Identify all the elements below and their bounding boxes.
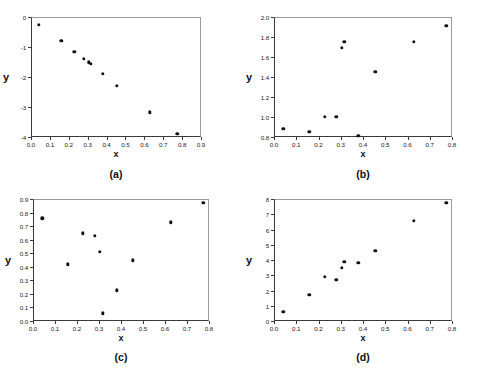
- y-tick-mark: [30, 267, 33, 268]
- data-point: [37, 23, 40, 26]
- y-tick-label: 2: [266, 287, 269, 294]
- x-tick-mark: [408, 321, 409, 324]
- y-tick-mark: [271, 275, 274, 276]
- panel-caption-c: (c): [115, 351, 128, 363]
- data-point: [340, 266, 343, 269]
- x-tick-mark: [125, 137, 126, 140]
- x-tick-label: 0.7: [426, 325, 434, 332]
- y-axis-label-c: y: [5, 254, 11, 266]
- data-point: [445, 24, 448, 27]
- x-tick-mark: [341, 321, 342, 324]
- x-tick-label: 0.1: [292, 141, 300, 148]
- x-axis-label-c: x: [118, 333, 123, 343]
- y-tick-mark: [30, 321, 33, 322]
- x-tick-label: 0.3: [95, 325, 103, 332]
- y-tick-label: 0.5: [20, 250, 28, 257]
- y-tick-label: 0.6: [20, 236, 28, 243]
- x-tick-label: 0.4: [359, 141, 367, 148]
- y-tick-mark: [271, 17, 274, 18]
- x-tick-mark: [144, 137, 145, 140]
- x-tick-label: 0.1: [292, 325, 300, 332]
- x-tick-label: 0.0: [270, 141, 278, 148]
- plot-frame-c: [33, 199, 209, 321]
- y-tick-mark: [30, 280, 33, 281]
- y-tick-mark: [271, 245, 274, 246]
- plot-frame-a: [31, 17, 201, 137]
- plot-area-c: [34, 200, 208, 320]
- y-tick-mark: [271, 291, 274, 292]
- y-tick-mark: [271, 214, 274, 215]
- data-point: [101, 311, 104, 314]
- y-tick-mark: [30, 199, 33, 200]
- x-tick-label: 0.1: [51, 325, 59, 332]
- x-tick-label: 0.2: [73, 325, 81, 332]
- x-tick-mark: [31, 137, 32, 140]
- y-axis-label-a: y: [3, 71, 9, 83]
- plot-frame-d: [274, 199, 452, 321]
- data-point: [93, 234, 96, 237]
- data-point: [98, 250, 101, 253]
- y-tick-mark: [28, 47, 31, 48]
- data-point: [89, 62, 92, 65]
- y-axis-label-b: y: [246, 71, 252, 83]
- y-tick-label: 2.0: [261, 14, 269, 21]
- x-tick-mark: [69, 137, 70, 140]
- x-tick-mark: [430, 321, 431, 324]
- data-point: [323, 275, 326, 278]
- y-tick-label: 7: [266, 211, 269, 218]
- x-tick-mark: [88, 137, 89, 140]
- x-tick-label: 0.2: [314, 325, 322, 332]
- x-tick-mark: [274, 137, 275, 140]
- x-tick-label: 0.8: [448, 325, 456, 332]
- y-tick-label: -1: [21, 44, 26, 51]
- x-tick-mark: [363, 137, 364, 140]
- x-axis-label-a: x: [113, 149, 118, 159]
- x-tick-mark: [143, 321, 144, 324]
- y-tick-label: 5: [266, 241, 269, 248]
- y-tick-label: 1.8: [261, 34, 269, 41]
- x-tick-mark: [341, 137, 342, 140]
- y-tick-label: 0.8: [261, 134, 269, 141]
- y-tick-label: 0.0: [20, 318, 28, 325]
- data-point: [60, 39, 63, 42]
- y-tick-label: 0.3: [20, 277, 28, 284]
- data-point: [101, 72, 104, 75]
- x-tick-label: 0.4: [117, 325, 125, 332]
- x-tick-label: 0.3: [337, 325, 345, 332]
- panel-c: 0.00.10.20.30.40.50.60.70.80.00.10.20.30…: [0, 185, 243, 369]
- x-tick-mark: [201, 137, 202, 140]
- x-tick-label: 0.7: [183, 325, 191, 332]
- y-tick-mark: [28, 17, 31, 18]
- y-tick-mark: [28, 77, 31, 78]
- x-tick-mark: [319, 321, 320, 324]
- x-tick-mark: [99, 321, 100, 324]
- y-axis-label-d: y: [246, 254, 252, 266]
- x-tick-label: 0.4: [359, 325, 367, 332]
- x-tick-mark: [385, 137, 386, 140]
- x-tick-mark: [163, 137, 164, 140]
- x-tick-mark: [274, 321, 275, 324]
- data-point: [334, 278, 337, 281]
- y-tick-label: -3: [21, 104, 26, 111]
- y-tick-mark: [271, 37, 274, 38]
- data-point: [373, 249, 376, 252]
- data-point: [176, 132, 179, 135]
- y-tick-label: 1.6: [261, 54, 269, 61]
- y-tick-mark: [271, 97, 274, 98]
- y-tick-label: 3: [266, 272, 269, 279]
- x-tick-mark: [209, 321, 210, 324]
- y-tick-label: -2: [21, 74, 26, 81]
- x-tick-label: 0.5: [121, 141, 129, 148]
- x-tick-label: 0.6: [403, 325, 411, 332]
- data-point: [282, 310, 285, 313]
- data-point: [323, 115, 326, 118]
- x-tick-label: 0.7: [426, 141, 434, 148]
- data-point: [115, 84, 118, 87]
- x-tick-mark: [408, 137, 409, 140]
- y-tick-label: 0.2: [20, 290, 28, 297]
- x-tick-label: 0.8: [205, 325, 213, 332]
- x-tick-mark: [55, 321, 56, 324]
- panel-caption-d: (d): [356, 351, 369, 363]
- data-point: [357, 261, 360, 264]
- x-tick-mark: [296, 321, 297, 324]
